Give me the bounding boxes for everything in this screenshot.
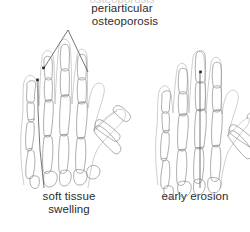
marker-periarticular-left-2 (36, 79, 39, 82)
right-hand-metacarpals (161, 131, 250, 189)
left-hand-phalanges (26, 44, 88, 151)
left-hand-skin-outline (21, 39, 126, 188)
left-hand-panel (21, 30, 131, 189)
marker-periarticular-left (42, 67, 45, 70)
right-hand-joint-lines (161, 109, 221, 159)
hand-radiograph-illustration (0, 0, 250, 232)
right-hand-phalanges (161, 51, 223, 161)
leader-periarticular-osteoporosis (44, 30, 88, 72)
right-hand-thumb-bones (229, 113, 250, 147)
marker-early-erosion (199, 71, 202, 74)
right-hand-panel (156, 51, 250, 199)
